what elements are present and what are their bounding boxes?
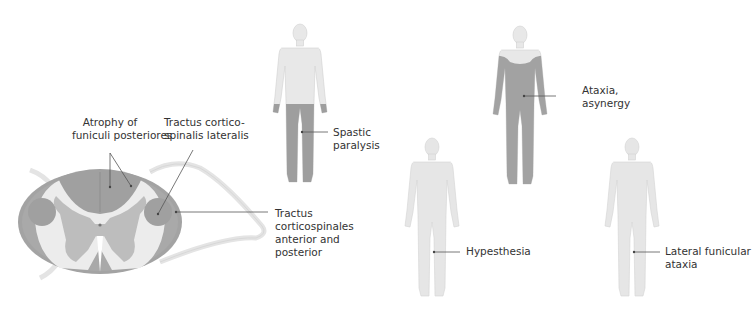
label-line: Lateral funicular	[665, 245, 751, 258]
label-spastic-paralysis: Spastic paralysis	[333, 126, 380, 152]
label-ataxia-asynergy: Ataxia, asynergy	[582, 84, 630, 110]
label-line: asynergy	[582, 97, 630, 110]
label-tractus-corticospinalis-lateralis: Tractus cortico- spinalis lateralis	[164, 116, 249, 142]
label-line: corticospinales	[275, 220, 354, 233]
label-atrophy-funiculi-posteriores: Atrophy of funiculi posteriores	[72, 116, 148, 142]
label-line: Hypesthesia	[466, 245, 531, 258]
figure-lateral-funicular-ataxia	[605, 138, 660, 296]
label-line: posterior	[275, 246, 354, 259]
label-tractus-corticospinales-anterior-posterior: Tractus corticospinales anterior and pos…	[275, 207, 354, 259]
label-line: ataxia	[665, 258, 751, 271]
figure-hypesthesia	[405, 138, 460, 296]
label-line: Spastic	[333, 126, 380, 139]
label-line: funiculi posteriores	[72, 129, 148, 142]
figure-ataxia-asynergy	[493, 26, 556, 184]
diagram-canvas	[0, 0, 754, 310]
label-line: spinalis lateralis	[164, 129, 249, 142]
spinal-cord-cross-section	[18, 150, 268, 278]
figure-spastic-paralysis	[273, 24, 328, 182]
label-hypesthesia: Hypesthesia	[466, 245, 531, 258]
label-line: Ataxia,	[582, 84, 630, 97]
label-lateral-funicular-ataxia: Lateral funicular ataxia	[665, 245, 751, 271]
label-line: paralysis	[333, 139, 380, 152]
label-line: anterior and	[275, 233, 354, 246]
label-line: Tractus	[275, 207, 354, 220]
label-line: Tractus cortico-	[164, 116, 249, 129]
label-line: Atrophy of	[72, 116, 148, 129]
